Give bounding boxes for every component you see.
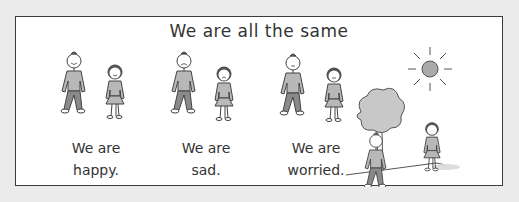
- sad-girl-figure: [215, 67, 233, 121]
- caption-worried: We are worried.: [271, 137, 361, 181]
- scene-boy-figure: [364, 133, 386, 187]
- illustration-frame: We are all the same: [15, 16, 503, 186]
- worried-girl-figure: [325, 68, 343, 122]
- tree-icon: [346, 88, 460, 175]
- caption-line: We are: [161, 137, 251, 159]
- caption-line: We are: [271, 137, 361, 159]
- happy-boy-figure: [61, 52, 85, 113]
- caption-line: We are: [51, 137, 141, 159]
- sad-boy-figure: [171, 52, 195, 113]
- caption-happy: We are happy.: [51, 137, 141, 181]
- caption-line: worried.: [271, 159, 361, 181]
- caption-line: happy.: [51, 159, 141, 181]
- worried-boy-figure: [280, 54, 304, 115]
- happy-girl-figure: [106, 65, 124, 119]
- sun-icon: [408, 47, 452, 91]
- caption-line: sad.: [161, 159, 251, 181]
- caption-sad: We are sad.: [161, 137, 251, 181]
